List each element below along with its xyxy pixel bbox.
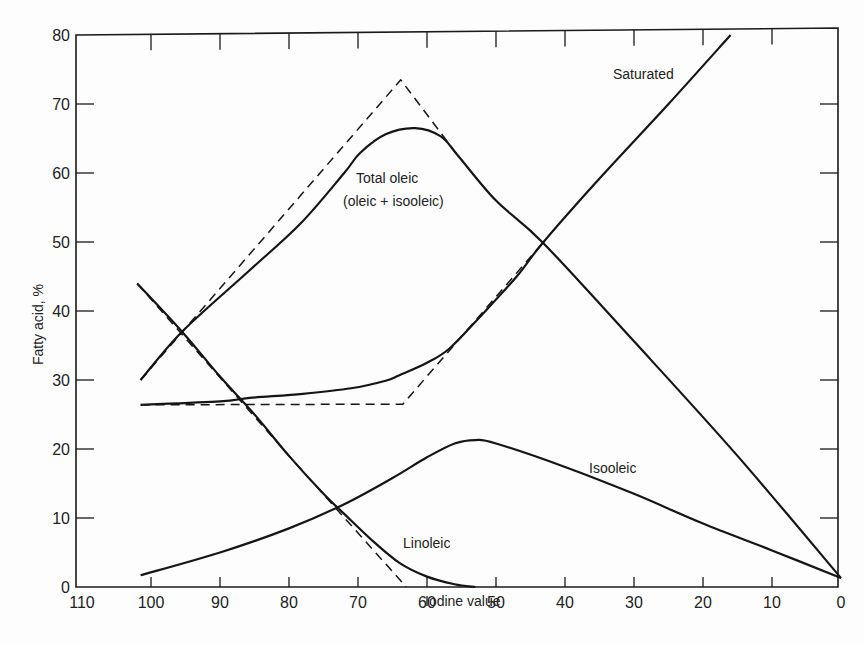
y-tick-label: 70 (52, 96, 70, 113)
y-tick-label: 30 (52, 372, 70, 389)
x-tick-label: 70 (349, 594, 367, 611)
label-linoleic: Linoleic (403, 535, 450, 551)
y-tick-label: 80 (52, 27, 70, 44)
y-tick-label: 0 (61, 579, 70, 596)
label-total-oleic: Total oleic (356, 170, 418, 186)
y-tick-label: 60 (52, 165, 70, 182)
y-tick-label: 20 (52, 441, 70, 458)
label-isooleic: Isooleic (589, 460, 636, 476)
fatty-acid-chart: 1101009080706050403020100010203040506070… (0, 0, 864, 645)
curve-saturated-theoretical (141, 243, 543, 405)
curve-total-oleic-theoretical (141, 80, 458, 380)
plot-border (76, 28, 838, 587)
x-tick-label: 100 (138, 594, 165, 611)
plot-frame (76, 28, 838, 587)
x-tick-label: 80 (280, 594, 298, 611)
curve-total-oleic-oleic-isooleic (141, 128, 841, 578)
y-tick-label: 10 (52, 510, 70, 527)
x-axis-title: Iodine value (425, 593, 501, 609)
y-tick-label: 40 (52, 303, 70, 320)
x-tick-label: 30 (625, 594, 643, 611)
y-tick-label: 50 (52, 234, 70, 251)
y-axis-title: Fatty acid, % (30, 284, 46, 365)
x-tick-label: 40 (556, 594, 574, 611)
x-tick-label: 90 (211, 594, 229, 611)
x-tick-label: 20 (694, 594, 712, 611)
x-tick-label: 0 (837, 594, 846, 611)
curves (137, 35, 841, 587)
label-total-oleic-sub: (oleic + isooleic) (343, 193, 444, 209)
curve-isooleic (141, 440, 841, 578)
label-saturated: Saturated (613, 66, 674, 82)
x-tick-label: 110 (69, 594, 95, 611)
curve-linoleic-theoretical (137, 283, 406, 587)
x-tick-label: 10 (763, 594, 781, 611)
